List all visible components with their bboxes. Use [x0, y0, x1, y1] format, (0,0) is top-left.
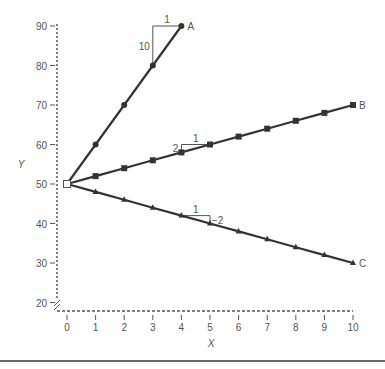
x-tick: 6	[236, 315, 242, 333]
data-point	[93, 142, 99, 148]
data-point	[207, 142, 213, 148]
x-tick-label: 6	[236, 322, 242, 333]
y-axis-title: Y	[18, 159, 26, 170]
svg-text:1: 1	[193, 133, 199, 144]
data-point	[178, 149, 184, 155]
y-tick: 90	[36, 21, 55, 32]
y-tick: 60	[36, 140, 55, 151]
y-tick: 80	[36, 61, 55, 72]
bottom-divider	[0, 360, 385, 362]
series-c: C	[67, 184, 366, 269]
data-point	[236, 134, 242, 140]
x-tick-label: 10	[347, 322, 359, 333]
x-tick: 7	[264, 315, 270, 333]
data-point	[264, 126, 270, 132]
x-tick: 4	[179, 315, 185, 333]
y-axis: 2030405060708090	[36, 21, 60, 310]
x-tick-label: 5	[207, 322, 213, 333]
y-tick: 30	[36, 258, 55, 269]
y-tick: 20	[36, 298, 55, 309]
y-tick-label: 20	[36, 298, 48, 309]
y-tick-label: 50	[36, 179, 48, 190]
svg-text:1: 1	[164, 14, 170, 25]
y-tick-label: 40	[36, 219, 48, 230]
line-chart: 2030405060708090 012345678910 110121−2 A…	[0, 0, 385, 369]
data-point	[150, 63, 156, 69]
x-tick: 8	[293, 315, 299, 333]
x-tick: 10	[347, 315, 359, 333]
slope-triangle-a: 110	[139, 14, 182, 66]
x-tick: 2	[121, 315, 127, 333]
slope-annotations: 110121−2	[139, 14, 224, 226]
x-tick-label: 0	[64, 322, 70, 333]
x-axis-title: X	[207, 338, 215, 349]
series-a: A	[67, 21, 194, 184]
y-tick: 70	[36, 100, 55, 111]
x-tick: 3	[150, 315, 156, 333]
start-point-marker	[64, 181, 71, 188]
x-tick: 1	[93, 315, 99, 333]
y-tick-label: 80	[36, 61, 48, 72]
data-point	[178, 23, 184, 29]
x-tick: 9	[322, 315, 328, 333]
svg-text:1: 1	[193, 204, 199, 215]
y-tick-label: 90	[36, 21, 48, 32]
series-label-b: B	[359, 100, 366, 111]
data-point	[93, 173, 99, 179]
series-label-c: C	[359, 258, 366, 269]
series-lines: ABC	[64, 21, 367, 269]
svg-text:10: 10	[139, 41, 151, 52]
x-axis: 012345678910	[57, 311, 359, 333]
y-tick-label: 30	[36, 258, 48, 269]
data-point	[150, 157, 156, 163]
y-tick: 40	[36, 219, 55, 230]
x-tick: 0	[64, 315, 70, 333]
x-tick-label: 8	[293, 322, 299, 333]
data-point	[350, 102, 356, 108]
x-tick-label: 1	[93, 322, 99, 333]
y-tick-label: 60	[36, 140, 48, 151]
x-tick-label: 2	[121, 322, 127, 333]
series-b: B	[67, 100, 366, 184]
x-tick-label: 7	[264, 322, 270, 333]
data-point	[321, 110, 327, 116]
y-tick-label: 70	[36, 100, 48, 111]
x-tick-label: 9	[322, 322, 328, 333]
data-point	[293, 118, 299, 124]
y-tick: 50	[36, 179, 55, 190]
series-label-a: A	[187, 21, 194, 32]
x-tick: 5	[207, 315, 213, 333]
x-tick-label: 3	[150, 322, 156, 333]
data-point	[121, 165, 127, 171]
x-tick-label: 4	[179, 322, 185, 333]
data-point	[121, 102, 127, 108]
